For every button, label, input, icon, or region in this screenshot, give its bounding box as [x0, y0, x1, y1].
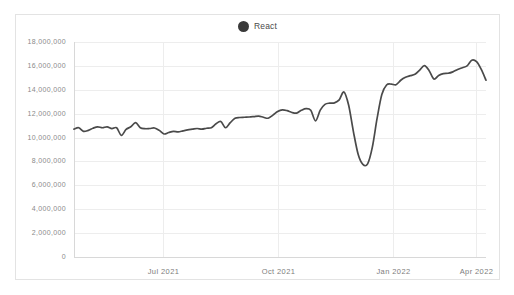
plot-area: 18,000,00016,000,00014,000,00012,000,000…	[16, 15, 501, 281]
y-axis-tick-label: 10,000,000	[27, 134, 66, 141]
y-axis-tick-label: 16,000,000	[27, 62, 66, 69]
line-chart-svg: 18,000,00016,000,00014,000,00012,000,000…	[16, 15, 501, 281]
x-axis-tick-labels: Jul 2021Oct 2021Jan 2022Apr 2022	[148, 267, 494, 276]
vertical-gridlines-group	[164, 42, 477, 257]
chart-card: React 18,000,00016,000,00014,000,00012,0…	[15, 14, 500, 280]
y-axis-tick-label: 6,000,000	[32, 181, 66, 188]
y-axis-tick-label: 14,000,000	[27, 86, 66, 93]
y-axis-tick-label: 12,000,000	[27, 110, 66, 117]
x-axis-tick-label: Apr 2022	[460, 267, 494, 276]
y-axis-tick-label: 18,000,000	[27, 38, 66, 45]
y-axis-tick-label: 8,000,000	[32, 157, 66, 164]
x-axis-tick-label: Jul 2021	[148, 267, 180, 276]
series-line-react	[74, 60, 486, 166]
y-axis-tick-label: 0	[62, 253, 66, 260]
y-axis-tick-label: 4,000,000	[32, 205, 66, 212]
y-axis-tick-label: 2,000,000	[32, 229, 66, 236]
x-axis-tick-label: Oct 2021	[262, 267, 296, 276]
page-root: React 18,000,00016,000,00014,000,00012,0…	[0, 0, 514, 295]
y-axis-tick-labels: 18,000,00016,000,00014,000,00012,000,000…	[27, 38, 66, 260]
gridlines-group	[74, 42, 486, 258]
x-axis-tick-label: Jan 2022	[376, 267, 410, 276]
